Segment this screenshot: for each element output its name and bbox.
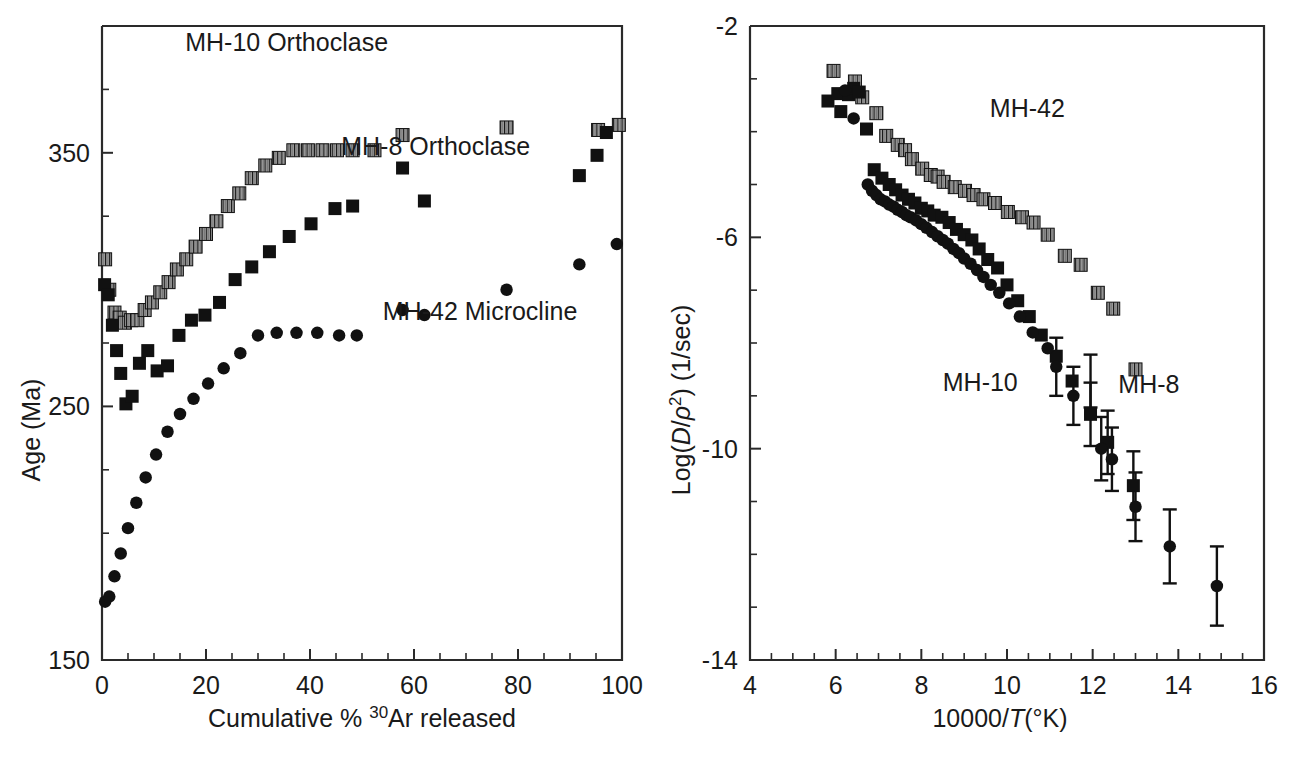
data-point <box>316 144 329 157</box>
data-point <box>870 107 883 120</box>
data-point <box>1058 249 1071 262</box>
data-point <box>989 196 1002 209</box>
data-point <box>839 84 851 96</box>
data-point <box>573 169 586 182</box>
data-point <box>283 230 296 243</box>
data-point <box>1027 216 1040 229</box>
data-point <box>1041 342 1053 354</box>
data-point <box>1127 479 1140 492</box>
y-tick-label: -14 <box>702 646 738 674</box>
data-point <box>1107 302 1120 315</box>
data-point <box>202 377 214 389</box>
y-axis-title-text: Age (Ma) <box>17 379 45 482</box>
data-point <box>229 273 242 286</box>
data-point <box>245 260 258 273</box>
data-point <box>1067 390 1079 402</box>
data-point <box>108 570 120 582</box>
data-point <box>301 144 314 157</box>
data-point <box>346 200 359 213</box>
data-point <box>133 357 146 370</box>
right-panel-x-axis-title: 10000/T(°K) <box>932 704 1067 732</box>
data-point <box>99 253 112 266</box>
series-annotation: MH-10 Orthoclase <box>185 28 388 56</box>
data-point <box>106 319 119 332</box>
data-point <box>1091 286 1104 299</box>
data-point <box>311 327 323 339</box>
data-point <box>114 367 127 380</box>
data-point <box>993 287 1005 299</box>
data-point <box>189 240 202 253</box>
data-point <box>287 144 300 157</box>
x-axis-title-pre: 10000/ <box>932 704 1009 732</box>
data-point <box>1211 580 1223 592</box>
y-axis-title-pre: Log( <box>667 445 695 496</box>
y-axis-title-superscript: 2 <box>666 396 685 405</box>
data-point <box>1164 540 1176 552</box>
data-point <box>130 497 142 509</box>
data-point <box>221 200 234 213</box>
data-point <box>270 327 282 339</box>
data-point <box>259 159 272 172</box>
data-point <box>122 522 134 534</box>
x-axis-title-post: Ar released <box>388 704 516 732</box>
data-point <box>198 309 211 322</box>
data-point <box>185 314 198 327</box>
x-axis-title-superscript: 30 <box>369 703 388 722</box>
left-panel-x-axis-title: Cumulative % 30Ar released <box>208 703 516 732</box>
svg-text:10000/T(°K): 10000/T(°K) <box>932 704 1067 732</box>
data-point <box>1066 375 1079 388</box>
y-tick-label: -6 <box>716 223 738 251</box>
figure-root: 020406080100150250350 Age (Ma) Cumulativ… <box>0 0 1310 762</box>
data-point <box>1014 310 1026 322</box>
y-axis-title-post: ) (1/sec) <box>667 305 695 397</box>
x-tick-label: 6 <box>829 671 843 699</box>
y-tick-label: -2 <box>716 12 738 40</box>
data-point <box>187 393 199 405</box>
data-point <box>328 202 341 215</box>
data-point <box>180 253 193 266</box>
data-point <box>991 261 1004 274</box>
x-tick-label: 0 <box>95 671 109 699</box>
data-point <box>263 245 276 258</box>
data-point <box>1026 326 1038 338</box>
series-annotation: MH-8 <box>1118 370 1179 398</box>
figure-svg: 020406080100150250350 Age (Ma) Cumulativ… <box>0 0 1310 762</box>
x-axis-title-pre: Cumulative % <box>208 704 369 732</box>
data-point <box>150 448 162 460</box>
data-point <box>600 126 613 139</box>
data-point <box>847 112 859 124</box>
data-point <box>1050 361 1062 373</box>
data-point <box>172 329 185 342</box>
data-point <box>612 118 625 131</box>
data-point <box>1003 297 1015 309</box>
data-point <box>1106 453 1118 465</box>
data-point <box>977 193 990 206</box>
data-point <box>1129 501 1141 513</box>
data-point <box>110 344 123 357</box>
data-point <box>573 258 585 270</box>
data-point <box>126 390 139 403</box>
data-point <box>305 217 318 230</box>
y-tick-label: -10 <box>702 435 738 463</box>
data-point <box>1001 205 1014 218</box>
data-point <box>139 471 151 483</box>
x-tick-label: 14 <box>1164 671 1192 699</box>
data-point <box>210 215 223 228</box>
data-point <box>333 329 345 341</box>
data-point <box>396 162 409 175</box>
data-point <box>234 347 246 359</box>
data-point <box>114 547 126 559</box>
data-point <box>1084 408 1096 420</box>
data-point <box>290 327 302 339</box>
data-point <box>162 276 175 289</box>
data-point <box>217 362 229 374</box>
y-tick-label: 350 <box>48 139 90 167</box>
x-tick-label: 60 <box>400 671 428 699</box>
x-tick-label: 8 <box>914 671 928 699</box>
data-point <box>213 296 226 309</box>
x-tick-label: 40 <box>296 671 324 699</box>
data-point <box>880 129 893 142</box>
data-point <box>1095 442 1107 454</box>
x-tick-label: 16 <box>1250 671 1278 699</box>
canvas-background <box>0 0 1310 762</box>
